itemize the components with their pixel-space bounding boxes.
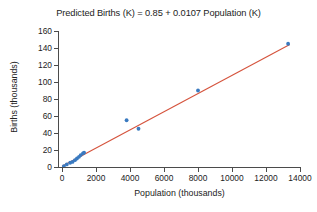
- y-tick-label-160: 160: [38, 27, 52, 35]
- x-tick-label-14000: 14000: [278, 174, 317, 183]
- x-axis-title: Population (thousands): [58, 188, 301, 198]
- x-tick-mark-10000: [232, 168, 233, 172]
- scatter-plot-svg: [58, 31, 300, 167]
- regression-line-segment: [62, 44, 290, 166]
- chart-title: Predicted Births (K) = 0.85 + 0.0107 Pop…: [0, 8, 317, 18]
- x-axis-line: [58, 167, 301, 168]
- chart-screenshot: Predicted Births (K) = 0.85 + 0.0107 Pop…: [0, 0, 317, 212]
- x-tick-mark-14000: [300, 168, 301, 172]
- y-tick-label-60: 60: [43, 112, 52, 120]
- y-tick-label-140: 140: [38, 44, 52, 52]
- y-tick-label-40: 40: [43, 129, 52, 137]
- data-point: [125, 118, 129, 122]
- data-point: [286, 42, 290, 46]
- x-tick-mark-2000: [96, 168, 97, 172]
- y-tick-mark-0: [54, 167, 58, 168]
- y-axis-title: Births (thousands): [9, 29, 19, 165]
- x-tick-mark-12000: [266, 168, 267, 172]
- data-point: [82, 151, 86, 155]
- data-point: [137, 127, 141, 131]
- plot-area: [58, 31, 300, 167]
- y-tick-label-80: 80: [43, 95, 52, 103]
- x-tick-mark-6000: [164, 168, 165, 172]
- x-tick-mark-4000: [130, 168, 131, 172]
- regression-line: [62, 44, 290, 166]
- y-tick-label-20: 20: [43, 146, 52, 154]
- data-point: [65, 163, 69, 167]
- y-tick-label-0: 0: [47, 163, 52, 171]
- y-tick-label-100: 100: [38, 78, 52, 86]
- x-tick-mark-0: [62, 168, 63, 172]
- x-tick-mark-8000: [198, 168, 199, 172]
- data-point: [196, 89, 200, 93]
- y-tick-label-120: 120: [38, 61, 52, 69]
